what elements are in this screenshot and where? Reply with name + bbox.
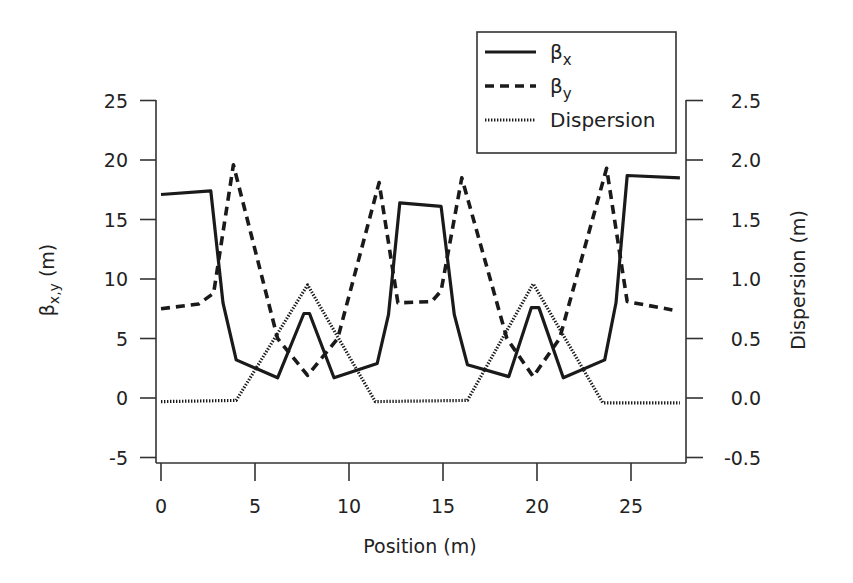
x-axis: 0510152025 xyxy=(155,463,686,517)
x-tick-label: 0 xyxy=(155,495,167,517)
y-axis-title-right: Dispersion (m) xyxy=(787,210,809,350)
legend-label: Dispersion xyxy=(550,108,656,132)
x-tick-label: 15 xyxy=(431,495,455,517)
y-tick-label: 10 xyxy=(104,268,128,290)
series-line--y xyxy=(161,165,672,377)
series-line--x xyxy=(161,176,680,378)
left-y-axis: -50510152025 xyxy=(104,90,156,469)
y-right-tick-label: -0.5 xyxy=(724,447,761,469)
y-tick-label: 15 xyxy=(104,209,128,231)
y-right-tick-label: 2.5 xyxy=(731,90,761,112)
y-axis-title-left: βx,y (m) xyxy=(36,244,62,317)
y-tick-label: 5 xyxy=(116,328,128,350)
y-right-tick-label: 1.5 xyxy=(731,209,761,231)
x-axis-title: Position (m) xyxy=(363,535,476,557)
plot-area xyxy=(161,165,680,403)
x-tick-label: 10 xyxy=(337,495,361,517)
y-tick-label: 25 xyxy=(104,90,128,112)
x-tick-label: 5 xyxy=(249,495,261,517)
x-tick-label: 20 xyxy=(525,495,549,517)
y-tick-label: 0 xyxy=(116,387,128,409)
right-y-axis: -0.50.00.51.01.52.02.5 xyxy=(686,90,761,469)
y-right-tick-label: 1.0 xyxy=(731,268,761,290)
x-tick-label: 25 xyxy=(619,495,643,517)
y-tick-label: 20 xyxy=(104,149,128,171)
y-right-tick-label: 0.5 xyxy=(731,328,761,350)
y-right-tick-label: 2.0 xyxy=(731,149,761,171)
chart: -50510152025 -0.50.00.51.01.52.02.5 0510… xyxy=(0,0,853,583)
y-right-tick-label: 0.0 xyxy=(731,387,761,409)
legend: βxβyDispersion xyxy=(477,32,676,153)
y-tick-label: -5 xyxy=(109,447,128,469)
